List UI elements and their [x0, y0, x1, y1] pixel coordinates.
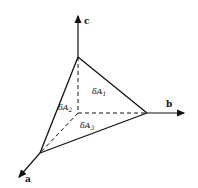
dashed-edge-a	[40, 113, 78, 153]
tetrahedron-diagram: c b a δA1 δA2 δA3	[0, 0, 198, 188]
edge-c-b	[78, 57, 147, 113]
axis-label-b: b	[166, 99, 172, 109]
edge-a-b	[40, 113, 147, 153]
face-label-dA3: δA3	[80, 121, 95, 131]
face-label-dA2: δA2	[58, 103, 73, 113]
face-label-dA1: δA1	[92, 87, 106, 97]
axis-label-c: c	[84, 16, 90, 26]
axis-label-a: a	[25, 174, 31, 184]
